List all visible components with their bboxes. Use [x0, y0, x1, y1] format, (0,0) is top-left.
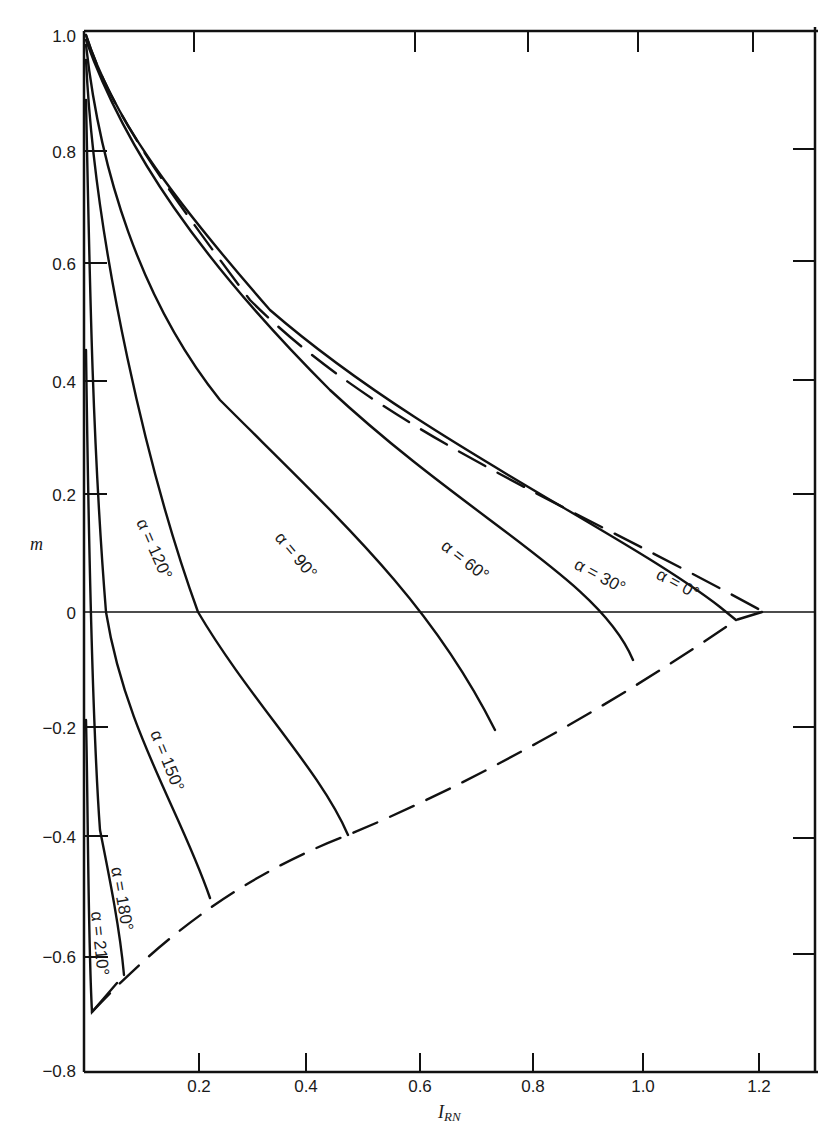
y-tick-label: 0 [67, 604, 76, 623]
x-tick-label: 0.2 [187, 1077, 211, 1096]
curve-alpha-0 [86, 35, 762, 611]
x-tick-label: 1.0 [631, 1077, 655, 1096]
y-tick-label: 0.6 [52, 255, 76, 274]
y-tick-labels: 1.0 0.8 0.6 0.4 0.2 0 −0.2 −0.4 −0.6 −0.… [42, 27, 76, 1081]
x-tick-label: 0.8 [521, 1077, 545, 1096]
x-tick-label: 0.6 [408, 1077, 432, 1096]
chart: 1.0 0.8 0.6 0.4 0.2 0 −0.2 −0.4 −0.6 −0.… [0, 0, 835, 1130]
y-tick-label: −0.8 [42, 1062, 76, 1081]
y-tick-label: 1.0 [52, 27, 76, 46]
label-alpha-60: α = 60° [438, 536, 493, 585]
x-tick-labels: 0.2 0.4 0.6 0.8 1.0 1.2 [187, 1077, 771, 1096]
y-tick-label: 0.8 [52, 143, 76, 162]
curve-alpha-120 [86, 60, 348, 835]
curves [86, 35, 762, 1012]
curve-alpha-150 [86, 100, 210, 898]
x-tick-label: 0.4 [294, 1077, 318, 1096]
x-tick-label: 1.2 [747, 1077, 771, 1096]
y-tick-label: −0.2 [42, 719, 76, 738]
end-locus [92, 612, 762, 1012]
y-tick-label: −0.4 [42, 828, 76, 847]
x-axis-title: IRN [437, 1102, 462, 1124]
label-alpha-90: α = 90° [271, 528, 321, 582]
y-axis-title: m [30, 534, 43, 554]
curve-alpha-90 [86, 45, 495, 730]
y-tick-label: 0.4 [52, 373, 76, 392]
y-tick-label: −0.6 [42, 948, 76, 967]
curve-alpha-30 [86, 35, 736, 620]
curve-labels: α = 0° α = 30° α = 60° α = 90° α = 120° … [87, 516, 702, 977]
y-tick-label: 0.2 [52, 486, 76, 505]
label-alpha-0: α = 0° [653, 565, 702, 603]
label-alpha-180: α = 180° [107, 865, 137, 932]
x-ticks [194, 31, 759, 1072]
